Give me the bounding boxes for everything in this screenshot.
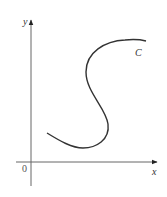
curve-label: C bbox=[135, 47, 142, 58]
origin-label: 0 bbox=[22, 163, 27, 174]
curve-c bbox=[47, 40, 146, 148]
diagram-canvas: y x 0 C bbox=[0, 0, 167, 197]
y-axis-label: y bbox=[22, 16, 28, 27]
x-axis-label: x bbox=[151, 166, 157, 177]
